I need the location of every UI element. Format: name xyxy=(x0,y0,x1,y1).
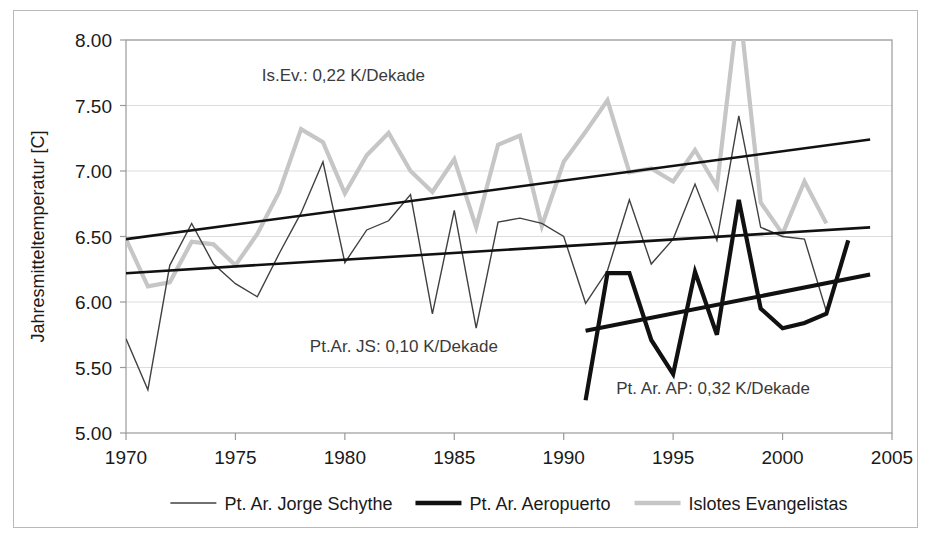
ytick-label-7.00: 7.00 xyxy=(75,161,112,182)
ytick-label-8.00: 8.00 xyxy=(75,30,112,51)
trendline-aeropuerto-trend xyxy=(586,274,871,330)
aeropuerto-slope-annotation: Pt. Ar. AP: 0,32 K/Dekade xyxy=(616,379,810,398)
y-axis-label: Jahresmitteltemperatur [C] xyxy=(28,130,48,342)
ytick-label-5.00: 5.00 xyxy=(75,423,112,444)
xtick-label-1975: 1975 xyxy=(214,447,256,468)
legend-item-pt-ar-jorge-schythe-label[interactable]: Pt. Ar. Jorge Schythe xyxy=(224,494,392,514)
xtick-label-1990: 1990 xyxy=(543,447,585,468)
series-group xyxy=(126,1,870,401)
xtick-label-2005: 2005 xyxy=(871,447,913,468)
xtick-label-2000: 2000 xyxy=(761,447,803,468)
legend-item-islotes-evangelistas-label[interactable]: Islotes Evangelistas xyxy=(689,494,848,514)
legend-item-pt-ar-aeropuerto-label[interactable]: Pt. Ar. Aeropuerto xyxy=(469,494,610,514)
trendline-jorge-schythe-trend xyxy=(126,227,870,273)
jorge-schythe-slope-annotation: Pt.Ar. JS: 0,10 K/Dekade xyxy=(310,337,498,356)
ytick-label-5.50: 5.50 xyxy=(75,358,112,379)
ytick-label-6.00: 6.00 xyxy=(75,292,112,313)
ytick-label-6.50: 6.50 xyxy=(75,227,112,248)
xtick-label-1985: 1985 xyxy=(433,447,475,468)
xtick-label-1995: 1995 xyxy=(652,447,694,468)
series-line-islotes-evangelistas xyxy=(126,1,826,287)
xtick-label-1970: 1970 xyxy=(105,447,147,468)
xtick-label-1980: 1980 xyxy=(324,447,366,468)
ytick-label-7.50: 7.50 xyxy=(75,96,112,117)
line-chart: 5.005.506.006.507.007.508.00197019751980… xyxy=(0,0,936,541)
chart-figure: 5.005.506.006.507.007.508.00197019751980… xyxy=(0,0,936,541)
islotes-slope-annotation: Is.Ev.: 0,22 K/Dekade xyxy=(262,66,425,85)
